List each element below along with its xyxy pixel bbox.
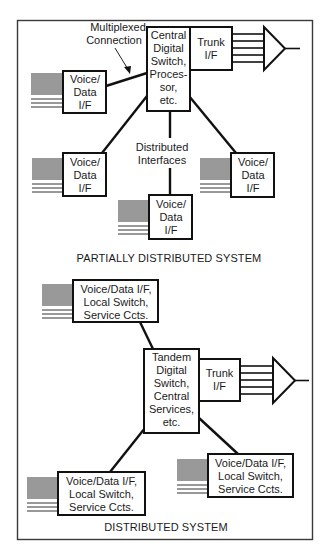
box-label: Central	[151, 29, 186, 41]
section-title-distributed: DISTRIBUTED SYSTEM	[104, 521, 227, 533]
partially-distributed-section: Multiplexed Connection Voice/ Data I/F C…	[31, 21, 300, 264]
box-label: I/F	[213, 380, 226, 392]
box-label: etc.	[160, 94, 178, 106]
subscriber-lines-bundle	[32, 159, 63, 192]
box-label: Tandem	[152, 351, 191, 363]
subscriber-lines-bundle	[200, 159, 231, 192]
link-bottom-left-local	[110, 428, 145, 472]
box-label: Voice/	[70, 156, 101, 168]
trunk-lines	[240, 366, 272, 394]
telecom-system-diagram: Multiplexed Connection Voice/ Data I/F C…	[0, 0, 331, 550]
box-label: Data	[73, 86, 97, 98]
multiplexed-connection-line	[106, 73, 147, 86]
subscriber-lines-bundle	[31, 74, 62, 107]
box-label: Central	[154, 390, 189, 402]
box-label: Voice/	[156, 198, 187, 210]
box-label: Digital	[153, 42, 184, 54]
box-label: Switch,	[154, 377, 189, 389]
link-top-local	[140, 322, 153, 349]
link-bottom-right-local	[199, 418, 238, 454]
box-label: Local Switch,	[218, 470, 283, 482]
subscriber-lines-bundle	[177, 460, 208, 493]
box-label: I/F	[247, 182, 260, 194]
box-label: Trunk	[197, 36, 225, 48]
box-label: Data	[73, 169, 97, 181]
box-label: Trunk	[206, 367, 234, 379]
box-label: Voice/Data I/F,	[215, 457, 286, 469]
box-label: Voice/Data I/F,	[66, 475, 137, 487]
link-right-interface	[189, 96, 236, 153]
box-label: Service Ccts.	[69, 501, 134, 513]
distributed-interfaces-label-2: Interfaces	[138, 154, 187, 166]
subscriber-lines-bundle	[27, 478, 58, 511]
box-label: I/F	[205, 49, 218, 61]
multiplexer-triangle-icon	[264, 27, 285, 70]
box-label: etc.	[163, 416, 181, 428]
section-title-partially-distributed: PARTIALLY DISTRIBUTED SYSTEM	[77, 252, 262, 264]
box-label: I/F	[165, 224, 178, 236]
subscriber-lines-bundle	[42, 285, 73, 318]
distributed-interfaces-label-1: Distributed	[136, 141, 189, 153]
box-label: Proces-	[150, 68, 188, 80]
subscriber-lines-bundle	[118, 201, 149, 234]
annotation-line-1: Multiplexed	[90, 21, 146, 33]
distributed-section: Voice/Data I/F, Local Switch, Service Cc…	[27, 280, 309, 533]
trunk-lines	[232, 34, 264, 62]
annotation-arrowhead-icon	[124, 66, 131, 74]
box-label: Data	[241, 169, 265, 181]
box-label: Digital	[156, 364, 187, 376]
box-label: Service Ccts.	[84, 309, 149, 321]
box-label: I/F	[79, 182, 92, 194]
box-label: Switch,	[151, 55, 186, 67]
box-label: Local Switch,	[69, 488, 134, 500]
annotation-line-2: Connection	[86, 34, 142, 46]
box-label: Voice/	[238, 156, 269, 168]
box-label: Service Ccts.	[218, 483, 283, 495]
box-label: I/F	[79, 99, 92, 111]
box-label: Services,	[149, 403, 194, 415]
box-label: Local Switch,	[84, 296, 149, 308]
box-label: Data	[159, 211, 183, 223]
box-label: Voice/Data I/F,	[81, 283, 152, 295]
box-label: sor,	[160, 81, 178, 93]
box-label: Voice/	[70, 73, 101, 85]
multiplexer-triangle-icon	[273, 358, 295, 403]
